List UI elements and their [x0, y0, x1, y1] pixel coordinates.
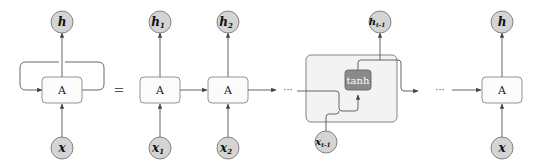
rnn-diagram: A h x = A h1 x1 A h2 x2 ··· — [0, 0, 536, 165]
equals-sign: = — [114, 82, 125, 97]
expanded-cell: tanh ht-1 xt-1 — [297, 11, 418, 153]
cell-label: A — [497, 84, 507, 97]
unrolled-cell-1: A h1 x1 — [140, 11, 180, 159]
unrolled-cell-2: A h2 x2 — [208, 11, 248, 159]
rolled-rnn: A h x — [20, 11, 104, 159]
input-label: x — [497, 141, 506, 155]
unrolled-cell-last: A h x — [482, 11, 522, 159]
ellipsis: ··· — [283, 84, 293, 95]
ellipsis: ··· — [435, 84, 445, 95]
input-label: x — [57, 141, 66, 155]
cell-label: A — [155, 84, 165, 97]
tanh-label: tanh — [347, 75, 370, 86]
output-label: h — [498, 15, 507, 29]
cell-label: A — [57, 84, 67, 97]
cell-label: A — [223, 84, 233, 97]
output-label: h — [58, 15, 67, 29]
